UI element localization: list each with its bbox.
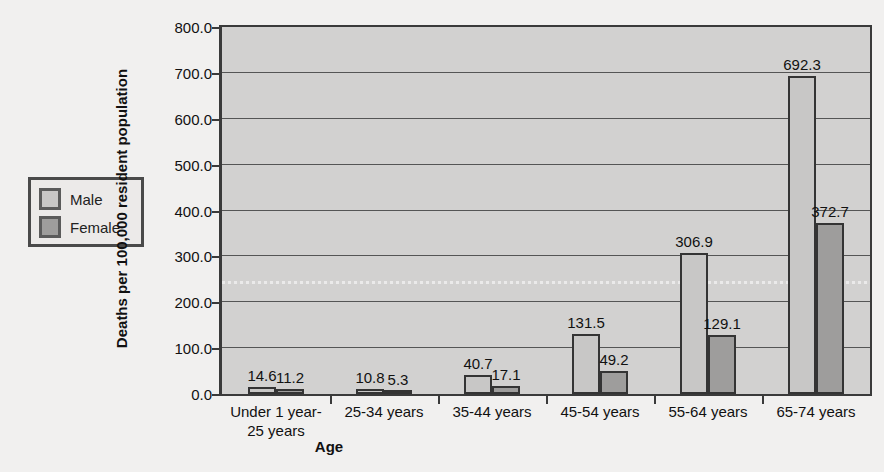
x-axis-tick-label: 35-44 years xyxy=(438,402,546,421)
y-axis-tick-mark xyxy=(212,394,219,396)
bar-male-1 xyxy=(356,389,384,394)
plot-area: 14.611.210.85.340.717.1131.549.2306.9129… xyxy=(219,25,872,396)
bar-male-5 xyxy=(788,76,816,394)
scan-artifact xyxy=(222,281,870,284)
bar-value-label: 306.9 xyxy=(664,233,724,250)
bar-value-label: 131.5 xyxy=(556,314,616,331)
y-axis-tick-mark xyxy=(212,73,219,75)
bar-value-label: 372.7 xyxy=(800,203,860,220)
x-axis-tick-label: 65-74 years xyxy=(762,402,870,421)
bar-value-label: 5.3 xyxy=(368,371,428,388)
y-axis-tick-label: 100.0 xyxy=(150,340,212,357)
bar-female-1 xyxy=(384,390,412,394)
y-axis-tick-labels: 0.0100.0200.0300.0400.0500.0600.0700.080… xyxy=(146,0,212,472)
y-axis-tick-mark xyxy=(212,302,219,304)
gridline xyxy=(222,164,870,165)
y-axis-tick-label: 700.0 xyxy=(150,64,212,81)
y-axis-title: Deaths per 100,000 resident population xyxy=(113,59,130,359)
y-axis-tick-label: 200.0 xyxy=(150,294,212,311)
y-axis-tick-label: 800.0 xyxy=(150,19,212,36)
y-axis-tick-label: 600.0 xyxy=(150,110,212,127)
legend-item-female: Female xyxy=(39,214,120,240)
bar-value-label: 129.1 xyxy=(692,315,752,332)
legend-item-male: Male xyxy=(39,186,103,212)
bar-male-0 xyxy=(248,387,276,394)
gridline xyxy=(222,301,870,302)
y-axis-tick-mark xyxy=(212,165,219,167)
y-axis-tick-label: 400.0 xyxy=(150,202,212,219)
x-axis-title: Age xyxy=(219,438,439,455)
bar-value-label: 11.2 xyxy=(260,369,320,386)
x-axis-tick-label: Under 1 year-25 years xyxy=(222,402,330,440)
legend-swatch-male xyxy=(39,188,61,210)
x-axis-tick-label: 55-64 years xyxy=(654,402,762,421)
gridline xyxy=(222,118,870,119)
y-axis-tick-label: 500.0 xyxy=(150,156,212,173)
gridline xyxy=(222,255,870,256)
y-axis-tick-mark xyxy=(212,348,219,350)
y-axis-tick-label: 300.0 xyxy=(150,248,212,265)
y-axis-tick-mark xyxy=(212,256,219,258)
bar-female-0 xyxy=(276,389,304,394)
bar-female-3 xyxy=(600,371,628,394)
x-axis-tick-label: 45-54 years xyxy=(546,402,654,421)
bar-chart-figure: Male Female Deaths per 100,000 resident … xyxy=(0,0,884,472)
y-axis-tick-mark xyxy=(212,119,219,121)
gridline xyxy=(222,210,870,211)
gridline xyxy=(222,347,870,348)
legend-swatch-female xyxy=(39,216,61,238)
y-axis-tick-label: 0.0 xyxy=(150,386,212,403)
y-axis-tick-mark xyxy=(212,211,219,213)
legend-label-male: Male xyxy=(70,191,103,208)
bar-value-label: 17.1 xyxy=(476,366,536,383)
x-axis-tick-label: 25-34 years xyxy=(330,402,438,421)
bar-female-5 xyxy=(816,223,844,394)
bar-female-2 xyxy=(492,386,520,394)
bar-value-label: 49.2 xyxy=(584,351,644,368)
bar-value-label: 692.3 xyxy=(772,56,832,73)
y-axis-tick-mark xyxy=(212,27,219,29)
bar-female-4 xyxy=(708,335,736,394)
